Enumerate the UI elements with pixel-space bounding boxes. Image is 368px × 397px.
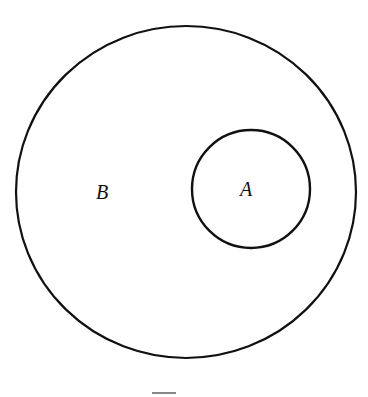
clipped-caption-fragment	[152, 392, 176, 394]
diagram-canvas: B A	[0, 0, 368, 397]
venn-diagram: B A	[0, 0, 368, 397]
set-a-label: A	[238, 178, 253, 200]
set-b-label: B	[96, 181, 108, 203]
set-b-circle	[16, 26, 356, 358]
